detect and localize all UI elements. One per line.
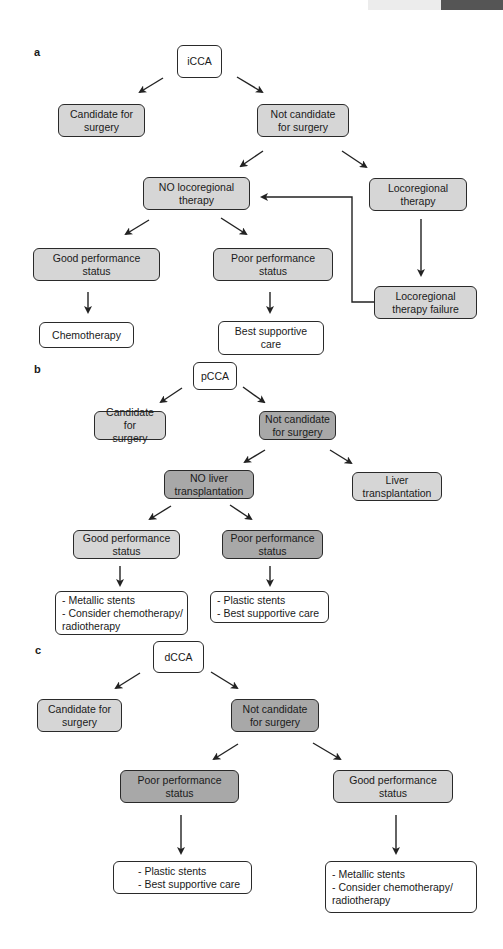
node-a-chemotherapy: Chemotherapy — [39, 322, 134, 348]
node-b-poor-ps: Poor performance status — [222, 530, 323, 559]
node-b-good-outcome: - Metallic stents - Consider chemotherap… — [55, 591, 188, 635]
node-b-no-liver-transplantation: NO liver transplantation — [164, 470, 254, 499]
node-a-no-locoregional: NO locoregional therapy — [143, 177, 250, 210]
node-a-best-supportive-care: Best supportive care — [218, 321, 324, 355]
node-c-good-ps: Good performance status — [333, 770, 453, 803]
node-c-poor-ps: Poor performance status — [120, 770, 239, 803]
node-dcca-root: dCCA — [153, 641, 204, 673]
node-pcca-root: pCCA — [193, 362, 237, 390]
node-icca-root: iCCA — [177, 45, 222, 78]
node-b-liver-transplantation: Liver transplantation — [352, 472, 442, 501]
panel-label-b: b — [34, 363, 41, 375]
node-a-locoregional: Locoregional therapy — [369, 178, 467, 211]
node-a-good-ps: Good performance status — [33, 248, 160, 281]
panel-label-a: a — [34, 46, 40, 58]
node-a-not-candidate-surgery: Not candidate for surgery — [257, 104, 349, 137]
node-b-not-candidate-surgery: Not candidate for surgery — [259, 411, 336, 440]
node-a-candidate-surgery: Candidate for surgery — [58, 104, 145, 137]
node-b-poor-outcome: - Plastic stents - Best supportive care — [210, 591, 329, 623]
panel-label-c: c — [35, 644, 41, 656]
node-a-poor-ps: Poor performance status — [213, 248, 333, 281]
node-c-candidate-surgery: Candidate for surgery — [37, 699, 122, 732]
node-c-poor-outcome: - Plastic stents - Best supportive care — [113, 861, 252, 894]
node-b-good-ps: Good performance status — [73, 530, 180, 559]
node-c-not-candidate-surgery: Not candidate for surgery — [231, 699, 319, 732]
node-a-locoregional-failure: Locoregional therapy failure — [374, 286, 477, 319]
node-b-candidate-surgery: Candidate for surgery — [94, 411, 166, 440]
node-c-good-outcome: - Metallic stents - Consider chemotherap… — [325, 861, 477, 913]
